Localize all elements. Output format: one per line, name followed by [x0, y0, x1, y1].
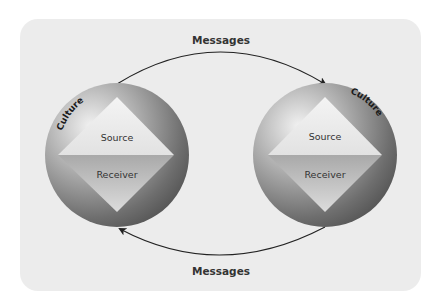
left-node: Source Receiver Culture — [45, 83, 189, 227]
right-receiver-label: Receiver — [304, 169, 345, 180]
right-node: Source Receiver Culture — [253, 83, 397, 227]
left-source-label: Source — [101, 132, 134, 143]
right-source-label: Source — [309, 131, 342, 142]
bottom-messages-label: Messages — [192, 265, 250, 277]
left-receiver-label: Receiver — [96, 169, 137, 180]
bottom-messages-arrow — [120, 227, 325, 255]
communication-diagram: Messages Messages Source Receiver Cultur… — [0, 0, 439, 307]
top-messages-arrow — [117, 52, 325, 84]
top-messages-label: Messages — [192, 34, 250, 46]
